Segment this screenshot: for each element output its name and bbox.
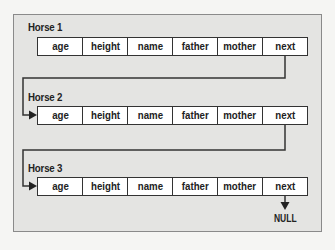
null-terminator: NULL	[274, 213, 296, 224]
arrow-head-icon	[29, 111, 37, 120]
edge-horse1-to-horse2	[23, 56, 285, 115]
edge-horse2-to-horse3	[23, 125, 285, 186]
arrow-down-icon	[281, 202, 290, 210]
arrow-head-icon	[29, 182, 37, 191]
